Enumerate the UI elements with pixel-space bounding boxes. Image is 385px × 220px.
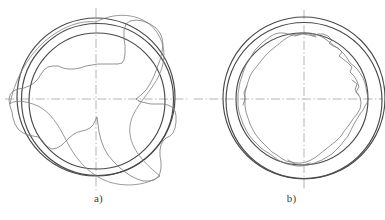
figure-root: a) b) [0,0,385,220]
measured-profile-a [9,20,176,181]
trilobe-envelope-a [10,15,164,185]
panel-b-roundness-diagram: b) [192,0,385,220]
profile-notch-right-b [352,80,359,95]
inner-reference-circle-a [29,33,165,169]
panel-b-svg [192,0,385,196]
panel-a-caption: a) [2,192,195,204]
measured-profile-b-waviness [245,33,361,163]
panel-a-svg [0,0,193,196]
panel-a-roundness-diagram: a) [0,0,193,220]
panel-b-caption: b) [195,192,385,204]
